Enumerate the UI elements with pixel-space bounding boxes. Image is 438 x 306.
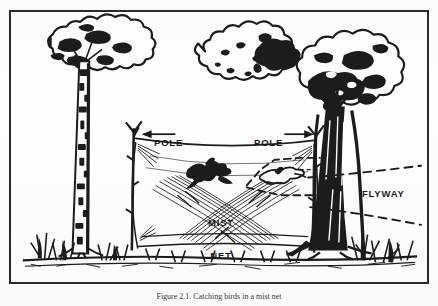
figure-caption: Figure 2.1. Catching birds in a mist net <box>0 292 438 306</box>
label-mist-net: MIST NET <box>208 195 234 283</box>
bird-outline <box>260 167 307 184</box>
label-mist-net-line1: MIST <box>208 217 234 228</box>
label-pole-right: POLE <box>254 137 283 148</box>
tree-left <box>48 14 155 258</box>
label-flyway: FLYWAY <box>362 188 405 199</box>
label-pole-left: POLE <box>154 137 183 148</box>
arrow-pole-right <box>284 130 314 138</box>
tree-right <box>286 30 404 259</box>
figure-page: POLE POLE MIST NET FLYWAY Figure 2.1. Ca… <box>0 0 438 306</box>
label-mist-net-line2: NET <box>208 250 234 261</box>
net-mesh-right <box>179 176 299 251</box>
pole-left <box>126 121 142 250</box>
figure-frame: POLE POLE MIST NET FLYWAY <box>9 10 429 284</box>
bird-silhouette <box>185 158 233 190</box>
